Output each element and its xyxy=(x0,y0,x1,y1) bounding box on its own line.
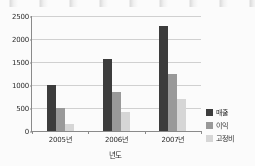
bar-2007-sales xyxy=(159,26,168,131)
bar-chart: 2500 2000 1500 1000 500 0 xyxy=(0,0,255,166)
legend-swatch-sales-icon xyxy=(206,109,213,116)
bar-2005-fixed xyxy=(65,124,74,131)
bar-2007-fixed xyxy=(177,99,186,131)
ytick-label-1500: 1500 xyxy=(12,59,29,67)
bar-2005-sales xyxy=(47,85,56,131)
legend-swatch-fixed-cost-icon xyxy=(206,135,213,142)
bar-2006-fixed xyxy=(121,112,130,131)
legend-label-fixed-cost: 고정비 xyxy=(216,133,233,143)
bar-groups: 2005년 2006년 2007년 xyxy=(32,16,201,131)
xaxis-title: 년도 xyxy=(31,149,200,160)
scan-artifact-band xyxy=(0,0,255,7)
legend-label-sales: 매출 xyxy=(216,107,228,117)
chart-legend: 매출 이익 고정비 xyxy=(206,107,233,143)
bar-2007-profit xyxy=(168,74,177,132)
bar-2006-sales xyxy=(103,59,112,131)
legend-swatch-profit-icon xyxy=(206,122,213,129)
plot-area: 2500 2000 1500 1000 500 0 xyxy=(31,16,201,132)
xaxis-tick-right-2007 xyxy=(201,131,202,134)
bar-group-2007: 2007년 xyxy=(145,16,201,131)
xaxis-tick-left-2005 xyxy=(32,131,33,134)
legend-item-profit: 이익 xyxy=(206,120,233,130)
xaxis-tick-left-2007 xyxy=(145,131,146,134)
bar-2006-profit xyxy=(112,92,121,131)
bar-group-2005: 2005년 xyxy=(32,16,88,131)
xtick-label-2007: 2007년 xyxy=(161,134,184,144)
bar-2005-profit xyxy=(56,108,65,131)
legend-item-sales: 매출 xyxy=(206,107,233,117)
bar-group-2006: 2006년 xyxy=(88,16,144,131)
xaxis-tick-left-2006 xyxy=(88,131,89,134)
ytick-label-1000: 1000 xyxy=(12,82,29,90)
legend-label-profit: 이익 xyxy=(216,120,228,130)
ytick-label-0: 0 xyxy=(25,128,29,136)
ytick-label-2000: 2000 xyxy=(12,36,29,44)
ytick-label-500: 500 xyxy=(16,105,29,113)
ytick-label-2500: 2500 xyxy=(12,13,29,21)
legend-item-fixed-cost: 고정비 xyxy=(206,133,233,143)
xtick-label-2005: 2005년 xyxy=(49,134,72,144)
gridline-0: 0 xyxy=(32,131,201,132)
xtick-label-2006: 2006년 xyxy=(105,134,128,144)
